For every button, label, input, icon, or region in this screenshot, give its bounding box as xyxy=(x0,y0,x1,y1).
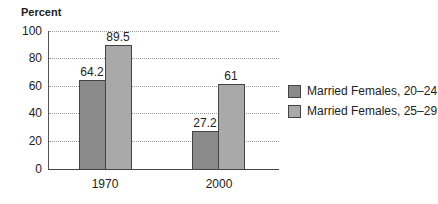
bar-2000-20-24 xyxy=(192,131,219,170)
x-axis xyxy=(48,169,279,170)
x-tick: 1970 xyxy=(75,177,135,191)
legend-label: Married Females, 20–24 xyxy=(307,84,437,98)
legend-item: Married Females, 25–29 xyxy=(288,104,437,118)
gridline xyxy=(49,31,279,32)
value-label: 27.2 xyxy=(185,116,225,130)
bar-1970-25-29 xyxy=(105,45,132,170)
legend-swatch xyxy=(288,85,301,98)
y-axis xyxy=(48,31,49,169)
value-label: 89.5 xyxy=(98,30,138,44)
y-tick: 80 xyxy=(0,52,42,64)
bar-1970-20-24 xyxy=(79,80,106,170)
y-tick: 40 xyxy=(0,107,42,119)
legend-item: Married Females, 20–24 xyxy=(288,84,437,98)
legend-label: Married Females, 25–29 xyxy=(307,104,437,118)
gridline xyxy=(49,58,279,59)
y-tick: 100 xyxy=(0,25,42,37)
y-tick: 60 xyxy=(0,80,42,92)
value-label: 61 xyxy=(211,69,251,83)
y-tick: 20 xyxy=(0,135,42,147)
legend-swatch xyxy=(288,105,301,118)
value-label: 64.2 xyxy=(72,65,112,79)
y-tick: 0 xyxy=(0,163,42,175)
y-axis-title: Percent xyxy=(21,6,61,18)
x-tick: 2000 xyxy=(189,177,249,191)
